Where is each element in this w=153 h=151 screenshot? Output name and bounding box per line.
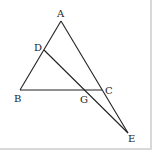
point-label-B: B: [14, 93, 21, 104]
segment-AB: [20, 21, 61, 90]
point-label-D: D: [34, 42, 42, 53]
point-label-C: C: [105, 85, 113, 96]
point-label-E: E: [128, 133, 135, 144]
point-label-A: A: [56, 8, 65, 19]
diagram-canvas: A D B G C E: [0, 0, 153, 151]
point-label-G: G: [80, 94, 88, 105]
triangle-diagram: A D B G C E: [0, 0, 153, 151]
